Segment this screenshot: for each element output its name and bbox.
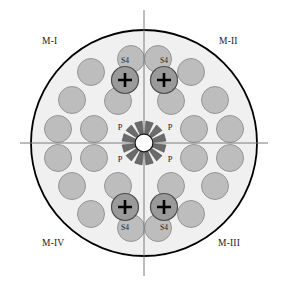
quadrant-label-m4: M-IV xyxy=(42,238,64,248)
pressure-label-1: P xyxy=(168,122,173,132)
rod-2 xyxy=(59,87,86,114)
rod-11 xyxy=(81,145,108,172)
quadrant-label-m3: M-III xyxy=(218,238,240,248)
rod-7 xyxy=(81,116,108,143)
rod-10 xyxy=(45,145,72,172)
pressure-label-0: P xyxy=(118,122,123,132)
pressure-label-2: P xyxy=(118,154,123,164)
rod-1 xyxy=(178,59,205,86)
center-hole xyxy=(135,134,153,152)
rod-17 xyxy=(202,173,229,200)
rod-9 xyxy=(217,116,244,143)
rod-13 xyxy=(217,145,244,172)
rod-8 xyxy=(181,116,208,143)
control-rod-label-0: S4 xyxy=(121,56,129,65)
rod-18 xyxy=(78,201,105,228)
rod-0 xyxy=(78,59,105,86)
rod-19 xyxy=(178,201,205,228)
control-rod-label-3: S4 xyxy=(160,223,168,232)
control-rod-label-1: S4 xyxy=(160,56,168,65)
quadrant-label-m1: M-I xyxy=(42,36,57,46)
rod-5 xyxy=(202,87,229,114)
pressure-label-3: P xyxy=(168,154,173,164)
rod-6 xyxy=(45,116,72,143)
control-rod-label-2: S4 xyxy=(121,223,129,232)
rod-12 xyxy=(181,145,208,172)
quadrant-label-m2: M-II xyxy=(219,36,238,46)
diagram-canvas: S4S4S4S4PPPP M-I M-II M-III M-IV xyxy=(0,0,286,286)
rod-14 xyxy=(59,173,86,200)
